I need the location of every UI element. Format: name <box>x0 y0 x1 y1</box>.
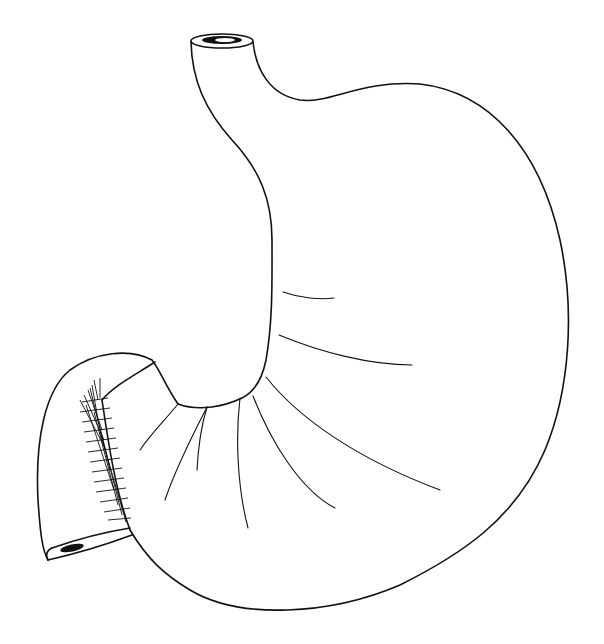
lesser-curvature <box>178 240 272 408</box>
stomach-illustration <box>0 0 604 644</box>
pyloric-sphincter-hatching <box>80 378 131 522</box>
duodenum-opening <box>47 528 132 560</box>
stomach-drawing <box>0 0 604 644</box>
body-folds <box>197 292 440 528</box>
esophagus <box>130 34 568 610</box>
